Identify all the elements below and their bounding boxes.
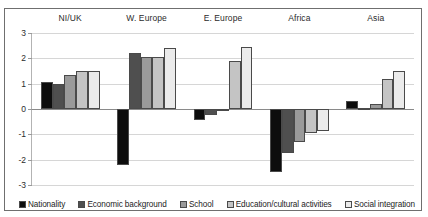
legend-swatch-icon — [180, 201, 187, 208]
bar — [393, 71, 405, 109]
chart-container: NI/UKW. EuropeE. EuropeAfricaAsia 3210-1… — [4, 8, 422, 211]
y-axis-tick — [28, 58, 32, 59]
bar — [164, 48, 176, 109]
y-axis-tick-label: 0 — [21, 104, 26, 114]
gridline — [32, 58, 414, 59]
bar — [229, 61, 241, 109]
bar — [294, 109, 306, 142]
bar — [205, 109, 217, 115]
y-axis-tick — [28, 84, 32, 85]
bar — [270, 109, 282, 172]
legend-item[interactable]: School — [180, 200, 213, 209]
y-axis-tick — [28, 185, 32, 186]
bar — [382, 79, 394, 109]
y-axis-tick-label: -2 — [18, 155, 26, 165]
legend-item[interactable]: Economic background — [78, 200, 166, 209]
bar — [370, 104, 382, 109]
category-label-e-europe: E. Europe — [185, 13, 261, 23]
legend-item[interactable]: Nationality — [19, 200, 65, 209]
legend-label: School — [189, 200, 213, 209]
y-axis-tick — [28, 160, 32, 161]
y-axis-tick-label: 2 — [21, 53, 26, 63]
bar — [217, 109, 229, 111]
bar — [76, 71, 88, 109]
bar — [282, 109, 294, 153]
bar — [41, 82, 53, 109]
gridline — [32, 134, 414, 135]
gridline — [32, 185, 414, 186]
legend-label: Education/cultural activities — [236, 200, 332, 209]
y-axis-tick-label: 3 — [21, 28, 26, 38]
legend-item[interactable]: Social integration — [345, 200, 415, 209]
bar — [117, 109, 129, 165]
y-axis-tick — [28, 134, 32, 135]
legend-swatch-icon — [227, 201, 234, 208]
chart-legend: NationalityEconomic backgroundSchoolEduc… — [15, 197, 419, 211]
plot-inner: 3210-1-2-3 — [32, 33, 414, 185]
legend-item[interactable]: Education/cultural activities — [227, 200, 332, 209]
bar — [88, 71, 100, 109]
gridline — [32, 160, 414, 161]
y-axis-tick — [28, 33, 32, 34]
category-label-w-europe: W. Europe — [108, 13, 184, 23]
bar — [194, 109, 206, 120]
legend-label: Social integration — [354, 200, 415, 209]
legend-swatch-icon — [19, 201, 26, 208]
bar — [64, 75, 76, 109]
y-axis-tick-label: -3 — [18, 180, 26, 190]
y-axis-tick-label: -1 — [18, 129, 26, 139]
category-label-africa: Africa — [261, 13, 337, 23]
bar — [317, 109, 329, 131]
plot-area: 3210-1-2-3 — [32, 33, 414, 185]
bar — [152, 57, 164, 109]
legend-label: Nationality — [28, 200, 65, 209]
bar — [241, 47, 253, 109]
y-axis-tick-label: 1 — [21, 79, 26, 89]
gridline — [32, 33, 414, 34]
category-label-row: NI/UKW. EuropeE. EuropeAfricaAsia — [5, 13, 423, 29]
bar — [358, 108, 370, 110]
bar — [305, 109, 317, 133]
bar — [346, 101, 358, 109]
legend-label: Economic background — [87, 200, 166, 209]
legend-swatch-icon — [345, 201, 352, 208]
y-axis-tick — [28, 109, 32, 110]
category-label-asia: Asia — [338, 13, 414, 23]
bar — [141, 57, 153, 109]
legend-swatch-icon — [78, 201, 85, 208]
category-label-ni-uk: NI/UK — [32, 13, 108, 23]
bar — [53, 84, 65, 109]
bar — [129, 53, 141, 109]
